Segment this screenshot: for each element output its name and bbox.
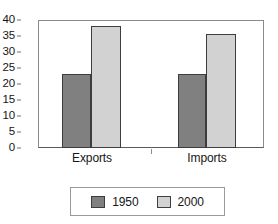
y-tick-mark (17, 84, 21, 85)
y-tick-mark (17, 52, 21, 53)
y-tick-label: 35 (3, 30, 15, 42)
y-tick-mark (17, 68, 21, 69)
legend-swatch-1950 (91, 196, 105, 208)
bar-exports-1950 (62, 74, 91, 148)
legend-label-2000: 2000 (178, 196, 204, 208)
y-tick-mark (17, 132, 21, 133)
legend-swatch-2000 (157, 196, 171, 208)
category-label-imports: Imports (167, 152, 247, 164)
y-tick-mark (17, 148, 21, 149)
bars-layer (38, 20, 264, 148)
chart-legend: 1950 2000 (70, 187, 225, 216)
y-tick-mark (17, 20, 21, 21)
legend-item-2000: 2000 (157, 196, 204, 208)
plot-area: 0510152025303540 Exports Imports (0, 0, 278, 170)
y-axis: 0510152025303540 (0, 0, 40, 170)
category-label-exports: Exports (52, 152, 132, 164)
bar-imports-2000 (206, 34, 236, 148)
y-tick-label: 20 (3, 78, 15, 90)
y-tick-label: 40 (3, 14, 15, 26)
y-tick-mark (17, 36, 21, 37)
y-tick-label: 5 (9, 126, 15, 138)
bar-exports-2000 (91, 26, 121, 148)
legend-item-1950: 1950 (91, 196, 138, 208)
y-tick-mark (17, 100, 21, 101)
y-tick-label: 0 (9, 142, 15, 154)
y-tick-label: 25 (3, 62, 15, 74)
bar-chart: 0510152025303540 Exports Imports 1950 20… (0, 0, 278, 224)
y-tick-label: 30 (3, 46, 15, 58)
bar-imports-1950 (178, 74, 206, 148)
y-tick-label: 15 (3, 94, 15, 106)
y-tick-mark (17, 116, 21, 117)
legend-label-1950: 1950 (112, 196, 138, 208)
y-tick-label: 10 (3, 110, 15, 122)
category-separator-tick (151, 149, 152, 154)
